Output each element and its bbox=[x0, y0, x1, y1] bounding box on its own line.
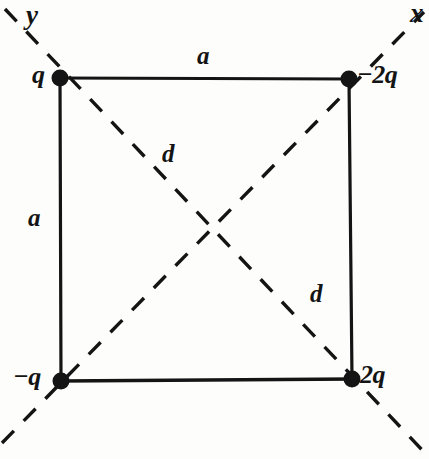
side-length-label-top: a bbox=[197, 43, 210, 68]
charge-node-bottom-right bbox=[344, 371, 361, 388]
charge-label-top-left: q bbox=[32, 62, 45, 88]
axis-label-y: y bbox=[26, 2, 38, 29]
square-edge-left bbox=[60, 78, 61, 381]
charge-node-bottom-left bbox=[53, 373, 70, 390]
charge-label-bottom-right: 2q bbox=[360, 362, 385, 388]
square-edge-top bbox=[60, 78, 349, 79]
diagonal-length-label-upper: d bbox=[162, 141, 175, 166]
charge-square-figure: y x q −2q −q 2q a a d d bbox=[0, 0, 429, 459]
diagonal-length-label-lower: d bbox=[310, 281, 323, 306]
square-edge-bottom bbox=[61, 379, 352, 381]
axis-label-x: x bbox=[410, 0, 424, 27]
charge-label-top-right: −2q bbox=[357, 62, 397, 88]
charge-node-top-right bbox=[341, 71, 358, 88]
charge-label-bottom-left: −q bbox=[13, 364, 41, 390]
charge-node-top-left bbox=[52, 70, 69, 87]
side-length-label-left: a bbox=[28, 205, 41, 230]
square-edge-right bbox=[349, 79, 352, 379]
